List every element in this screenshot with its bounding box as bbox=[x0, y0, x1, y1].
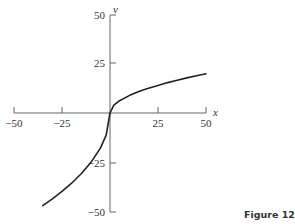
x-tick-label: 25 bbox=[153, 117, 165, 129]
x-axis-label: x bbox=[212, 106, 218, 118]
data-curve bbox=[43, 74, 206, 206]
y-axis-label: v bbox=[113, 3, 118, 15]
x-tick-label: 50 bbox=[201, 117, 213, 129]
y-tick-label: 50 bbox=[94, 9, 106, 21]
y-tick-label: −50 bbox=[88, 206, 106, 218]
y-tick-label: 25 bbox=[94, 57, 106, 69]
figure-caption: Figure 12.3 bbox=[244, 209, 295, 220]
chart: −50 −25 25 50 50 25 −25 −50 x v bbox=[0, 0, 295, 224]
x-tick-label: −25 bbox=[53, 117, 71, 129]
x-tick-label: −50 bbox=[5, 117, 23, 129]
